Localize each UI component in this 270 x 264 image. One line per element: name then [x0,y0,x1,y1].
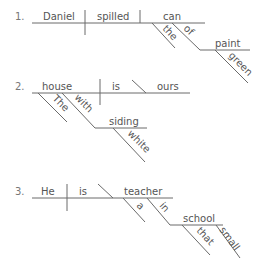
preposition-word: with [73,92,96,115]
prep-object-word: paint [215,38,241,49]
modifier-word: small [217,225,242,253]
prep-object-word: school [183,213,215,224]
object-word: can [163,11,181,22]
sentence-diagrams: 1. Daniel spilled can the of paint green… [0,0,270,264]
verb-word: spilled [97,11,129,22]
modifier-word: a [135,200,147,212]
modifier-word: The [50,92,72,114]
preposition-word: of [182,23,197,38]
verb-word: is [112,81,120,92]
complement-word: teacher [124,186,163,197]
diagram-1: 1. Daniel spilled can the of paint green [15,10,255,83]
diagram-number: 1. [15,11,25,22]
verb-word: is [79,186,87,197]
subject-word: He [41,186,55,197]
diagram-2: 2. house is ours The with siding white [15,79,190,162]
diagram-number: 2. [15,81,25,92]
complement-divider [98,184,113,198]
subject-word: house [42,81,72,92]
complement-word: ours [157,81,179,92]
modifier-word: the [161,23,180,43]
modifier-word: green [227,50,255,78]
prep-object-word: siding [109,116,139,127]
modifier-word: that [195,225,217,247]
diagram-3: 3. He is teacher a in school that small [15,184,242,258]
complement-divider [132,80,146,93]
modifier-word: white [126,128,153,155]
diagram-number: 3. [15,186,25,197]
preposition-word: in [158,200,172,214]
subject-word: Daniel [43,11,75,22]
